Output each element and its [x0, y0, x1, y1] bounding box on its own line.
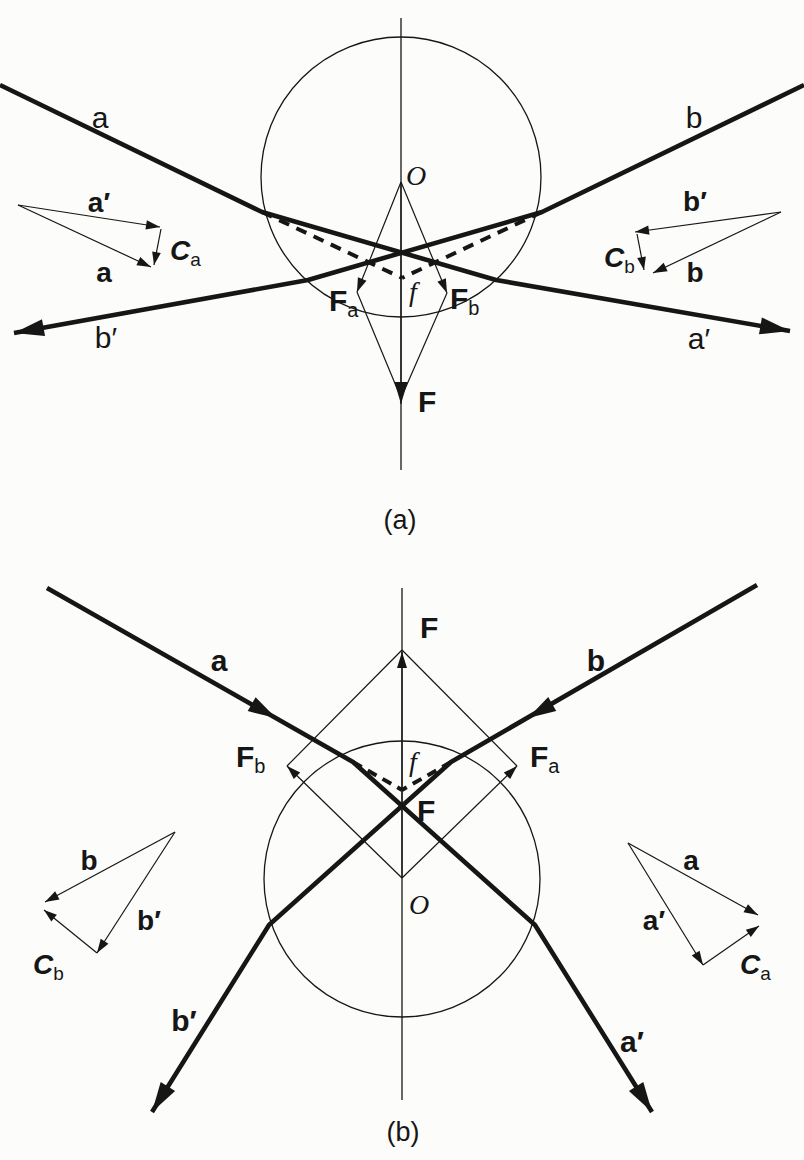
panel-b-momentum-b-label: b — [80, 845, 97, 876]
vector-a-arrowhead — [744, 904, 758, 915]
ray-b-path — [152, 585, 757, 1112]
panel-a: abb′a′OFafFbFa′aCab′bCb(a) — [0, 18, 804, 535]
panel-b-ray-b-label: b — [587, 644, 605, 677]
force-f-resultant-arrow-arrowhead — [395, 382, 408, 404]
panel-a-ray-a-prime-label: a′ — [688, 322, 711, 355]
vector-ca-arrowhead — [746, 926, 759, 937]
panel-b-ray-a-label: a — [211, 644, 228, 677]
panel-b-ray-b-prime-label: b′ — [171, 1004, 197, 1037]
ray-a-path — [0, 85, 790, 331]
panel-a-force-fa-label: Fa — [329, 284, 359, 321]
panel-a-momentum-b-prime-label: b′ — [683, 186, 707, 217]
figure-canvas: abb′a′OFafFbFa′aCab′bCb(a)FabFbFafFObb′C… — [0, 0, 804, 1160]
page: abb′a′OFafFbFa′aCab′bCb(a)FabFbFafFObb′C… — [0, 0, 804, 1160]
vector-b-arrowhead — [45, 891, 60, 902]
panel-a-focus-label: f — [409, 276, 420, 307]
panel-a-ray-a-label: a — [92, 101, 109, 134]
force-fa-arrow — [357, 182, 401, 292]
vector-b-prime-arrowhead — [635, 226, 649, 235]
vector-a-arrowhead — [136, 257, 151, 267]
parallelogram-edge-left — [287, 650, 402, 766]
panel-b-momentum-ca-label: Ca — [740, 949, 771, 984]
vector-a — [18, 205, 151, 267]
ray-b-path-arrowhead — [152, 1082, 175, 1112]
panel-a-force-f-label: F — [418, 385, 436, 418]
panel-a-momentum-cb-label: Cb — [604, 242, 635, 277]
panel-b-force-fb-label: Fb — [236, 740, 265, 777]
panel-b-momentum-a-label: a — [683, 845, 699, 876]
ray-b-path-direction-arrowhead-0 — [528, 697, 556, 718]
parallelogram-edge-right — [401, 293, 447, 398]
panel-a-momentum-a-label: a — [96, 257, 112, 288]
panel-b-momentum-b-prime-label: b′ — [137, 905, 161, 936]
panel-b-ray-a-prime-label: a′ — [620, 1025, 644, 1058]
panel-b-focus-label: f — [409, 746, 420, 777]
force-f-resultant-arrow-arrowhead — [397, 652, 407, 668]
panel-b-force-fa-label: Fa — [530, 740, 560, 777]
force-fb-arrow — [401, 182, 447, 293]
panel-a-force-fb-label: Fb — [450, 282, 479, 319]
parallelogram-edge-right — [402, 650, 517, 766]
panel-b-momentum-a-prime-label: a′ — [643, 905, 666, 936]
panel-a-momentum-ca-label: Ca — [170, 235, 201, 270]
panel-a-momentum-b-label: b — [686, 257, 703, 288]
vector-cb-arrowhead — [637, 256, 646, 270]
panel-a-sphere-center-label: O — [406, 160, 426, 191]
panel-a-caption: (a) — [384, 505, 417, 535]
vector-b-prime — [97, 832, 175, 953]
panel-b-force-f-top-label: F — [420, 611, 438, 644]
force-fa-arrow-arrowhead — [357, 277, 366, 292]
panel-b-sphere-center-label: O — [409, 889, 429, 920]
ray-a-path-arrowhead — [629, 1082, 652, 1112]
vector-ca-arrowhead — [152, 251, 161, 265]
vector-cb-arrowhead — [44, 910, 57, 922]
panel-b-caption: (b) — [387, 1117, 420, 1147]
vector-a-prime-arrowhead — [692, 951, 703, 965]
panel-a-momentum-a-prime-label: a′ — [88, 187, 111, 218]
vector-b — [45, 832, 175, 902]
ray-a-path-direction-arrowhead-0 — [248, 697, 276, 718]
vector-b-arrowhead — [653, 263, 668, 273]
vector-b-prime-arrowhead — [97, 939, 108, 953]
panel-b-momentum-cb-label: Cb — [33, 949, 64, 984]
parallelogram-edge-left — [357, 292, 401, 398]
panel-b-force-f-mid-label: F — [417, 794, 435, 827]
panel-a-ray-b-prime-label: b′ — [95, 321, 118, 354]
panel-b: FabFbFafFObb′Cbaa′Cab′a′(b) — [33, 585, 771, 1147]
panel-a-ray-b-label: b — [686, 101, 703, 134]
force-fb-arrow-arrowhead — [437, 278, 447, 293]
vector-a-prime-arrowhead — [145, 220, 160, 229]
